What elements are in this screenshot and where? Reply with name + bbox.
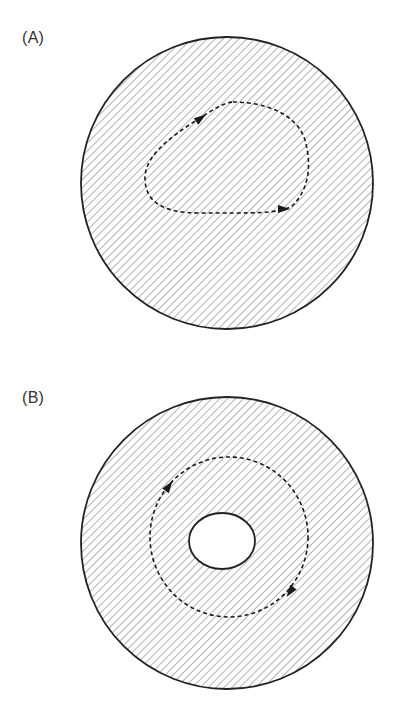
region-a-hatched-disk <box>81 37 373 329</box>
region-a <box>81 37 373 329</box>
region-b <box>81 397 373 689</box>
region-b-hole <box>189 513 255 569</box>
diagram-canvas <box>0 0 394 727</box>
